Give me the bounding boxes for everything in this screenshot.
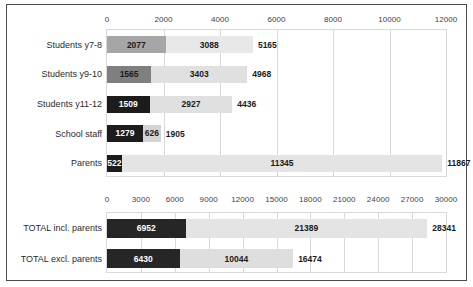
top-bar-segment: 11345 bbox=[122, 155, 442, 172]
bottom-bar-segment: 10044 bbox=[180, 249, 293, 268]
top-segment-value: 1509 bbox=[119, 100, 138, 109]
bottom-chart-x-axis: 0300060009000120001500018000210002400027… bbox=[7, 193, 466, 207]
bottom-category-label: TOTAL incl. parents bbox=[23, 224, 102, 233]
top-chart-plot-area: Students y7-8207730885165Students y9-101… bbox=[106, 29, 447, 177]
top-segment-value: 626 bbox=[145, 129, 159, 138]
bottom-segment-value: 6952 bbox=[137, 224, 156, 233]
top-bar-segment: 626 bbox=[143, 125, 161, 142]
top-bar-segment: 3403 bbox=[151, 66, 247, 83]
bottom-bar-segment: 6430 bbox=[107, 249, 180, 268]
bottom-bar-segment: 21389 bbox=[186, 219, 428, 238]
top-total-value: 4968 bbox=[252, 70, 271, 79]
top-tick-label: 0 bbox=[105, 13, 110, 27]
bottom-bar-row: TOTAL excl. parents64301004416474 bbox=[107, 249, 446, 268]
bottom-stacked-bar-chart: 0300060009000120001500018000210002400027… bbox=[7, 182, 466, 280]
top-tick-label: 12000 bbox=[435, 13, 458, 27]
chart-frame: 020004000600080001000012000 Students y7-… bbox=[6, 4, 467, 281]
bottom-segment-value: 6430 bbox=[134, 255, 153, 264]
top-bar-segment: 522 bbox=[107, 155, 122, 172]
top-category-label: Parents bbox=[71, 159, 102, 168]
top-tick-label: 8000 bbox=[324, 13, 342, 27]
top-total-value: 11867 bbox=[447, 159, 470, 168]
bottom-tick-label: 30000 bbox=[435, 193, 458, 207]
top-bar-row: School staff12796261905 bbox=[107, 125, 446, 142]
bottom-tick-label: 0 bbox=[105, 193, 110, 207]
top-bar-row: Students y9-10156534034968 bbox=[107, 66, 446, 83]
top-bar-segment: 1279 bbox=[107, 125, 143, 142]
top-bar-segment: 1509 bbox=[107, 96, 150, 113]
top-tick-label: 4000 bbox=[211, 13, 229, 27]
top-bar-row: Students y11-12150929274436 bbox=[107, 96, 446, 113]
top-category-label: Students y9-10 bbox=[41, 70, 102, 79]
bottom-tick-label: 27000 bbox=[401, 193, 424, 207]
top-bar-segment: 2927 bbox=[150, 96, 233, 113]
top-bar-row: Students y7-8207730885165 bbox=[107, 36, 446, 53]
bottom-bar-row: TOTAL incl. parents69522138928341 bbox=[107, 219, 446, 238]
top-segment-value: 3403 bbox=[190, 70, 209, 79]
top-bar-row: Parents5221134511867 bbox=[107, 155, 446, 172]
top-category-label: School staff bbox=[55, 129, 102, 138]
top-segment-value: 3088 bbox=[200, 41, 219, 50]
bottom-tick-label: 24000 bbox=[367, 193, 390, 207]
top-chart-x-axis: 020004000600080001000012000 bbox=[7, 13, 466, 27]
top-tick-label: 6000 bbox=[267, 13, 285, 27]
chart-screenshot: 020004000600080001000012000 Students y7-… bbox=[0, 0, 473, 287]
bottom-segment-value: 21389 bbox=[295, 224, 319, 233]
top-segment-value: 2077 bbox=[127, 41, 146, 50]
top-stacked-bar-chart: 020004000600080001000012000 Students y7-… bbox=[7, 5, 466, 182]
top-total-value: 4436 bbox=[237, 100, 256, 109]
top-segment-value: 1279 bbox=[116, 129, 135, 138]
top-bar-segment: 2077 bbox=[107, 36, 166, 53]
top-segment-value: 11345 bbox=[270, 159, 293, 168]
bottom-tick-label: 3000 bbox=[132, 193, 150, 207]
bottom-tick-label: 18000 bbox=[299, 193, 322, 207]
top-total-value: 5165 bbox=[258, 41, 277, 50]
top-tick-label: 2000 bbox=[154, 13, 172, 27]
bottom-bar-segment: 6952 bbox=[107, 219, 186, 238]
bottom-tick-label: 12000 bbox=[231, 193, 254, 207]
bottom-tick-label: 6000 bbox=[166, 193, 184, 207]
bottom-tick-label: 15000 bbox=[265, 193, 288, 207]
top-segment-value: 522 bbox=[107, 159, 121, 168]
top-bar-segment: 3088 bbox=[166, 36, 253, 53]
bottom-tick-label: 21000 bbox=[333, 193, 356, 207]
bottom-segment-value: 10044 bbox=[225, 255, 249, 264]
top-bar-segment: 1565 bbox=[107, 66, 151, 83]
bottom-total-value: 16474 bbox=[298, 255, 322, 264]
bottom-tick-label: 9000 bbox=[200, 193, 218, 207]
top-category-label: Students y7-8 bbox=[46, 40, 102, 49]
bottom-total-value: 28341 bbox=[432, 224, 456, 233]
top-segment-value: 1565 bbox=[120, 70, 139, 79]
top-segment-value: 2927 bbox=[182, 100, 201, 109]
top-total-value: 1905 bbox=[166, 129, 185, 138]
top-tick-label: 10000 bbox=[378, 13, 401, 27]
bottom-chart-plot-area: TOTAL incl. parents69522138928341TOTAL e… bbox=[106, 212, 447, 273]
top-category-label: Students y11-12 bbox=[37, 100, 102, 109]
bottom-category-label: TOTAL excl. parents bbox=[21, 254, 102, 263]
